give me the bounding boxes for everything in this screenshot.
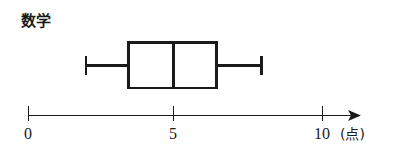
boxplot-group (86, 43, 262, 89)
axis-tick-label-10: 10 (314, 125, 330, 142)
axis-tick-label-5: 5 (169, 125, 177, 142)
x-axis: 0 5 10 (点) (24, 106, 365, 142)
axis-tick-label-0: 0 (24, 125, 32, 142)
box-plot-figure: 数学 0 5 10 (0, 0, 399, 148)
box-plot-canvas: 0 5 10 (点) (0, 0, 399, 148)
axis-unit-label: (点) (340, 126, 365, 142)
